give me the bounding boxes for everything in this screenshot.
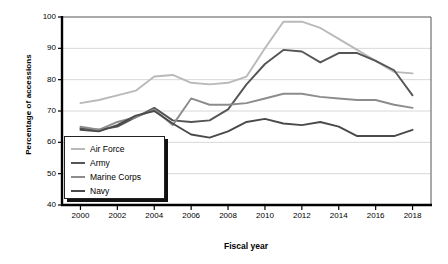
- legend-label-navy: Navy: [90, 184, 109, 198]
- legend-label-air-force: Air Force: [90, 142, 124, 156]
- legend-item: Marine Corps: [69, 170, 164, 184]
- legend-swatch-air-force: [71, 148, 85, 150]
- series-line-marine-corps: [80, 94, 412, 130]
- legend-swatch-marine-corps: [71, 176, 85, 178]
- legend-swatch-army: [71, 162, 85, 164]
- legend-label-marine-corps: Marine Corps: [90, 170, 141, 184]
- legend: Air Force Army Marine Corps Navy: [64, 136, 165, 199]
- series-line-air-force: [80, 22, 412, 103]
- legend-item: Army: [69, 156, 164, 170]
- line-chart: Percentage of accessions Fiscal year 100…: [0, 0, 448, 264]
- series-line-navy: [80, 111, 412, 138]
- legend-item: Navy: [69, 184, 164, 198]
- legend-label-army: Army: [90, 156, 110, 170]
- legend-item: Air Force: [69, 142, 164, 156]
- legend-swatch-navy: [71, 190, 85, 192]
- plot-canvas: [0, 0, 448, 264]
